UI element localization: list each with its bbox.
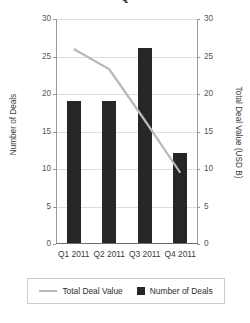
chart-container: Q Number of Deals Total Deal Value (USD … <box>0 0 250 323</box>
left-axis-tick-label: 30 <box>42 15 51 23</box>
left-axis-tick-label: 0 <box>46 240 51 248</box>
chart-legend: Total Deal Value Number of Deals <box>27 278 225 304</box>
line-series <box>56 19 198 244</box>
left-axis-tick-label: 20 <box>42 90 51 98</box>
right-axis-tick-label: 30 <box>204 15 213 23</box>
legend-label-total-deal-value: Total Deal Value <box>62 286 122 296</box>
left-axis-tick-label: 25 <box>42 53 51 61</box>
right-axis-tick-label: 15 <box>204 128 213 136</box>
category-label: Q4 2011 <box>157 249 203 259</box>
left-axis-tick-label: 15 <box>42 128 51 136</box>
plot-area: 051015202530 051015202530 <box>56 19 198 244</box>
chart-title: Q <box>0 0 250 3</box>
left-axis-title: Number of Deals <box>9 65 18 185</box>
right-axis-title: Total Deal Value (USD B) <box>234 63 243 203</box>
right-axis-tick-label: 20 <box>204 90 213 98</box>
legend-label-number-of-deals: Number of Deals <box>150 286 213 296</box>
right-axis-tick-label: 5 <box>204 203 209 211</box>
right-axis-tick-label: 25 <box>204 53 213 61</box>
legend-item-total-deal-value: Total Deal Value <box>39 286 122 296</box>
right-tick-mark <box>197 244 200 245</box>
left-axis-tick-label: 10 <box>42 165 51 173</box>
legend-item-number-of-deals: Number of Deals <box>137 286 213 296</box>
bar-swatch-icon <box>137 287 145 295</box>
right-axis-tick-label: 10 <box>204 165 213 173</box>
left-axis-tick-label: 5 <box>46 203 51 211</box>
right-axis-tick-label: 0 <box>204 240 209 248</box>
line-swatch-icon <box>39 290 57 292</box>
left-tick-mark <box>53 244 56 245</box>
total-deal-value-line <box>74 49 181 173</box>
